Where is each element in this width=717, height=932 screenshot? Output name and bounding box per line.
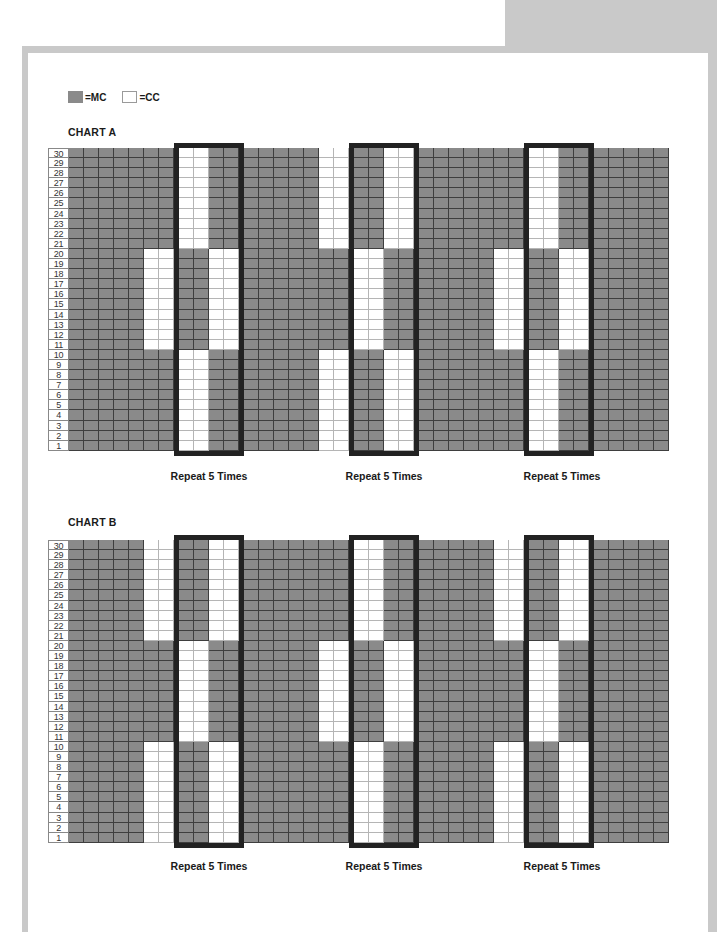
stitch-cell [384,279,399,289]
stitch-cell [69,168,84,178]
stitch-cell [509,712,524,722]
stitch-cell [624,681,639,691]
stitch-cell [639,702,654,712]
stitch-cell [559,259,574,269]
stitch-cell [129,310,144,320]
stitch-cell [399,712,414,722]
stitch-cell [319,249,334,259]
stitch-cell [224,229,239,239]
stitch-cell [129,148,144,158]
stitch-cell [509,631,524,641]
stitch-cell [99,209,114,219]
stitch-cell [99,390,114,400]
stitch-cell [639,550,654,560]
stitch-cell [129,681,144,691]
stitch-cell [194,209,209,219]
stitch-cell [449,752,464,762]
stitch-cell [464,742,479,752]
stitch-cell [259,691,274,701]
stitch-cell [509,560,524,570]
stitch-column [529,148,544,451]
stitch-cell [419,641,434,651]
stitch-cell [289,611,304,621]
stitch-cell [304,279,319,289]
stitch-cell [179,340,194,350]
stitch-cell [354,380,369,390]
stitch-cell [654,441,669,451]
stitch-cell [159,340,174,350]
stitch-cell [464,360,479,370]
stitch-cell [129,289,144,299]
stitch-cell [639,671,654,681]
stitch-cell [509,320,524,330]
stitch-cell [624,380,639,390]
stitch-cell [179,188,194,198]
stitch-cell [639,823,654,833]
stitch-cell [509,390,524,400]
stitch-cell [369,550,384,560]
stitch-cell [509,621,524,631]
stitch-cell [159,158,174,168]
stitch-cell [84,158,99,168]
stitch-cell [419,782,434,792]
stitch-cell [369,289,384,299]
stitch-cell [479,259,494,269]
row-label: 24 [48,601,69,611]
stitch-cell [354,219,369,229]
stitch-cell [319,833,334,843]
stitch-cell [624,431,639,441]
stitch-cell [289,188,304,198]
stitch-cell [609,833,624,843]
stitch-cell [159,712,174,722]
stitch-cell [509,661,524,671]
row-label: 15 [48,691,69,701]
stitch-cell [509,168,524,178]
stitch-cell [609,310,624,320]
stitch-cell [369,722,384,732]
stitch-cell [159,209,174,219]
repeat-box [174,535,244,848]
stitch-cell [334,299,349,309]
stitch-cell [179,410,194,420]
stitch-cell [129,188,144,198]
stitch-cell [544,148,559,158]
stitch-cell [509,540,524,550]
stitch-cell [399,601,414,611]
stitch-cell [529,239,544,249]
stitch-cell [244,441,259,451]
stitch-cell [494,823,509,833]
stitch-cell [129,209,144,219]
stitch-cell [319,742,334,752]
stitch-cell [194,570,209,580]
stitch-cell [159,621,174,631]
stitch-cell [144,178,159,188]
stitch-cell [289,229,304,239]
stitch-cell [159,762,174,772]
stitch-cell [449,178,464,188]
stitch-cell [399,813,414,823]
stitch-cell [274,631,289,641]
stitch-cell [224,360,239,370]
stitch-cell [334,219,349,229]
stitch-cell [419,671,434,681]
stitch-cell [319,681,334,691]
stitch-cell [559,269,574,279]
stitch-cell [99,320,114,330]
stitch-cell [99,229,114,239]
stitch-cell [509,742,524,752]
stitch-cell [559,370,574,380]
stitch-column [529,540,544,843]
stitch-cell [654,712,669,722]
stitch-cell [209,320,224,330]
stitch-cell [159,570,174,580]
stitch-cell [179,621,194,631]
stitch-cell [479,410,494,420]
stitch-cell [594,560,609,570]
stitch-cell [529,691,544,701]
stitch-cell [434,631,449,641]
stitch-cell [384,611,399,621]
stitch-cell [224,400,239,410]
stitch-cell [84,299,99,309]
stitch-cell [399,168,414,178]
stitch-cell [654,762,669,772]
